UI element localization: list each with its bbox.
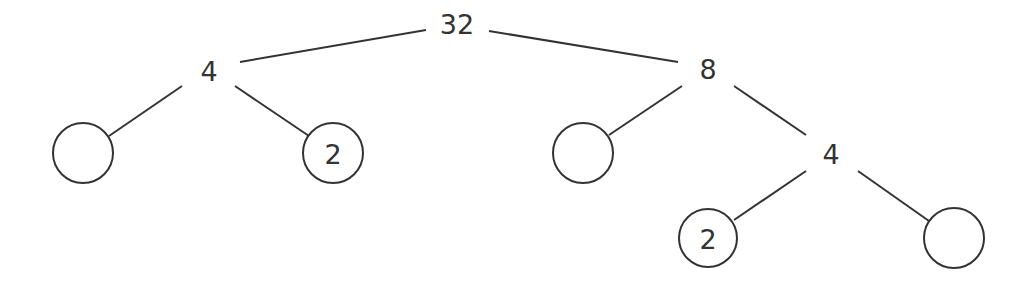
node-c2	[924, 208, 984, 268]
node-a-label: 4	[200, 56, 217, 87]
node-c1-label: 2	[699, 224, 716, 255]
node-b2-label: 4	[822, 139, 839, 170]
edge-a-a1	[109, 86, 182, 136]
node-a1-circle	[53, 123, 113, 183]
node-b2: 4	[822, 139, 839, 170]
edge-b2-c1	[734, 171, 806, 220]
node-a2-label: 2	[324, 139, 341, 170]
edge-root-a	[240, 30, 426, 62]
edge-b-b1	[609, 86, 682, 135]
edge-root-b	[489, 31, 678, 62]
edge-b2-c2	[858, 171, 929, 221]
node-b1	[553, 123, 613, 183]
node-root-label: 32	[440, 9, 474, 40]
node-b: 8	[699, 54, 716, 85]
edge-b-b2	[734, 86, 806, 135]
node-a1	[53, 123, 113, 183]
factor-tree-diagram: 32 4 8 2 4 2	[0, 0, 1024, 298]
edge-a-a2	[235, 86, 309, 136]
node-a2: 2	[303, 123, 363, 183]
edges	[109, 30, 929, 221]
node-a: 4	[200, 56, 217, 87]
node-root: 32	[440, 9, 474, 40]
node-b1-circle	[553, 123, 613, 183]
node-c1: 2	[679, 209, 737, 267]
node-b-label: 8	[699, 54, 716, 85]
node-c2-circle	[924, 208, 984, 268]
